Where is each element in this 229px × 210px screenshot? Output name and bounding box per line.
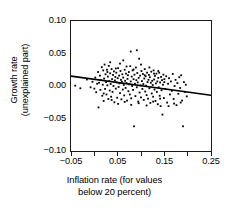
scatter-point: [160, 76, 162, 78]
scatter-point: [180, 102, 182, 104]
scatter-point: [180, 74, 182, 76]
scatter-point: [93, 88, 95, 90]
scatter-point: [146, 105, 148, 107]
y-tick-label: −0.05: [32, 114, 66, 123]
scatter-point: [131, 85, 133, 87]
scatter-point: [169, 94, 171, 96]
scatter-point: [138, 77, 140, 79]
scatter-point: [172, 73, 174, 75]
scatter-point: [150, 71, 152, 73]
scatter-point: [126, 66, 128, 68]
scatter-point: [166, 102, 168, 104]
scatter-point: [179, 87, 181, 89]
scatter-point: [136, 72, 138, 74]
scatter-point: [111, 99, 113, 101]
x-axis-title-line1: Inflation rate (for values: [0, 174, 229, 186]
scatter-point: [99, 75, 101, 77]
scatter-point: [127, 78, 129, 80]
scatter-point: [125, 73, 127, 75]
scatter-point: [163, 97, 165, 99]
x-tick-mark: [94, 152, 95, 156]
scatter-point: [107, 76, 109, 78]
scatter-point: [131, 76, 133, 78]
scatter-point: [161, 79, 163, 81]
scatter-point: [104, 88, 106, 90]
scatter-point: [108, 65, 110, 67]
scatter-point: [165, 75, 167, 77]
scatter-point: [135, 79, 137, 81]
scatter-point: [102, 70, 104, 72]
scatter-point: [154, 75, 156, 77]
scatter-point: [177, 93, 179, 95]
scatter-point: [139, 92, 141, 94]
y-axis-title-line1: Growth rate: [9, 44, 20, 116]
scatter-point: [153, 70, 155, 72]
scatter-point: [160, 105, 162, 107]
y-tick-label: 0.10: [32, 16, 66, 25]
scatter-point: [111, 78, 113, 80]
scatter-point: [123, 84, 125, 86]
scatter-point: [100, 89, 102, 91]
scatter-point: [152, 101, 154, 103]
x-tick-mark: [141, 152, 142, 156]
scatter-point: [103, 93, 105, 95]
scatter-point: [149, 76, 151, 78]
scatter-point: [120, 79, 122, 81]
scatter-point: [121, 73, 123, 75]
scatter-point: [183, 81, 185, 83]
scatter-point: [110, 96, 112, 98]
scatter-point: [140, 64, 142, 66]
scatter-point: [182, 125, 184, 127]
scatter-point: [144, 91, 146, 93]
scatter-point: [151, 80, 153, 82]
scatter-point: [128, 71, 130, 73]
scatter-point: [119, 63, 121, 65]
scatter-point: [149, 102, 151, 104]
scatter-point: [79, 87, 81, 89]
scatter-point: [155, 83, 157, 85]
y-tick-label: −0.10: [32, 146, 66, 155]
scatter-point: [126, 100, 128, 102]
scatter-point: [124, 101, 126, 103]
scatter-point: [130, 51, 132, 53]
scatter-point: [162, 114, 164, 116]
scatter-point: [117, 67, 119, 69]
scatter-point: [117, 103, 119, 105]
scatter-point: [146, 94, 148, 96]
scatter-points: [74, 49, 187, 127]
scatter-point: [151, 93, 153, 95]
scatter-point: [98, 82, 100, 84]
scatter-point: [103, 100, 105, 102]
scatter-point: [144, 68, 146, 70]
scatter-point: [119, 92, 121, 94]
scatter-point: [109, 90, 111, 92]
scatter-point: [138, 102, 140, 104]
scatter-point: [157, 103, 159, 105]
scatter-point: [109, 72, 111, 74]
scatter-point: [185, 84, 187, 86]
x-tick-label: 0.25: [189, 157, 229, 166]
scatter-point: [120, 70, 122, 72]
scatter-point: [157, 70, 159, 72]
scatter-point: [118, 75, 120, 77]
scatter-point: [140, 96, 142, 98]
scatter-point: [106, 94, 108, 96]
scatter-point: [146, 72, 148, 74]
scatter-point: [159, 98, 161, 100]
scatter-point: [141, 70, 143, 72]
scatter-point: [156, 81, 158, 83]
scatter-point: [163, 74, 165, 76]
scatter-point: [135, 95, 137, 97]
scatter-point: [149, 67, 151, 69]
scatter-point: [150, 82, 152, 84]
scatter-point: [121, 98, 123, 100]
scatter-point: [95, 91, 97, 93]
scatter-point: [104, 64, 106, 66]
scatter-point: [173, 103, 175, 105]
scatter-plot-figure: Growth rate (unexplained part) 0.100.050…: [0, 0, 229, 210]
scatter-point: [137, 82, 139, 84]
scatter-point: [168, 77, 170, 79]
scatter-point: [90, 86, 92, 88]
scatter-point: [129, 65, 131, 67]
scatter-point: [94, 77, 96, 79]
